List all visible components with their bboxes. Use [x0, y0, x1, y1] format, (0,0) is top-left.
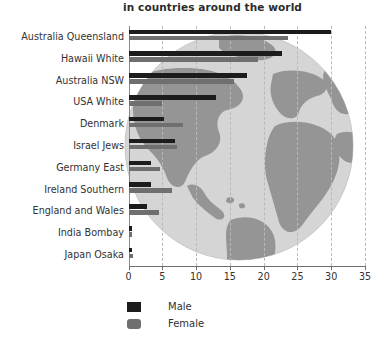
x-tick [129, 266, 130, 270]
chart-legend: Male Female [127, 299, 297, 333]
bar-row [129, 222, 366, 243]
legend-item-male: Male [127, 299, 297, 316]
x-tick-label: 0 [125, 271, 131, 282]
category-label: Germany East [0, 162, 124, 173]
bar-female [129, 36, 288, 41]
x-axis-line [129, 266, 366, 267]
bar-male [129, 182, 152, 187]
x-tick-label: 35 [359, 271, 371, 282]
bar-row [129, 70, 366, 91]
bar-row [129, 244, 366, 265]
bar-row [129, 113, 366, 134]
bar-male [129, 51, 282, 56]
category-label: Israel Jews [0, 140, 124, 151]
legend-label-female: Female [168, 318, 204, 329]
x-tick-label: 30 [325, 271, 337, 282]
bar-male [129, 95, 216, 100]
bar-female [129, 167, 161, 172]
bar-male [129, 248, 132, 253]
bar-male [129, 30, 332, 35]
x-tick-label: 25 [291, 271, 303, 282]
x-tick [297, 266, 298, 270]
bar-female [129, 254, 133, 259]
bar-female [129, 188, 172, 193]
chart-container: in countries around the world Australia … [0, 0, 387, 339]
bar-female [129, 232, 132, 237]
x-tick [230, 266, 231, 270]
bar-male [129, 226, 132, 231]
category-label: Denmark [0, 118, 124, 129]
category-label: USA White [0, 96, 124, 107]
x-tick-label: 15 [224, 271, 236, 282]
category-label: Hawaii White [0, 53, 124, 64]
category-label: Japan Osaka [0, 249, 124, 260]
category-label: England and Wales [0, 205, 124, 216]
x-tick [365, 266, 366, 270]
bar-row [129, 91, 366, 112]
bar-female [129, 145, 178, 150]
category-label: Australia Queensland [0, 31, 124, 42]
plot-area [129, 26, 366, 266]
x-tick-label: 5 [159, 271, 165, 282]
bar-rows [129, 26, 366, 266]
x-tick [162, 266, 163, 270]
bar-female [129, 210, 159, 215]
bar-row [129, 26, 366, 47]
category-axis-labels: Australia QueenslandHawaii WhiteAustrali… [0, 26, 124, 266]
gridline-35 [365, 26, 366, 266]
bar-male [129, 161, 151, 166]
legend-item-female: Female [127, 316, 297, 333]
category-label: Australia NSW [0, 75, 124, 86]
male-swatch-icon [127, 302, 141, 312]
bar-female [129, 79, 234, 84]
bar-row [129, 48, 366, 69]
bar-male [129, 139, 176, 144]
bar-male [129, 73, 247, 78]
x-tick-label: 20 [258, 271, 270, 282]
bar-row [129, 135, 366, 156]
x-tick [196, 266, 197, 270]
bar-male [129, 204, 148, 209]
bar-female [129, 57, 259, 62]
bar-row [129, 157, 366, 178]
x-tick [331, 266, 332, 270]
bar-row [129, 179, 366, 200]
female-swatch-icon [127, 319, 141, 329]
category-label: Ireland Southern [0, 184, 124, 195]
chart-title: in countries around the world [0, 1, 387, 13]
bar-female [129, 123, 183, 128]
category-label: India Bombay [0, 227, 124, 238]
x-tick [264, 266, 265, 270]
x-tick-label: 10 [190, 271, 202, 282]
bar-female [129, 101, 163, 106]
bar-male [129, 117, 165, 122]
bar-row [129, 201, 366, 222]
legend-label-male: Male [168, 301, 192, 312]
